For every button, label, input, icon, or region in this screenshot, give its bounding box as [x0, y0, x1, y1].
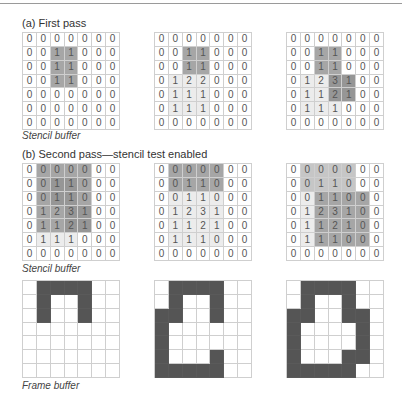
frame-pixel-empty	[65, 323, 79, 337]
stencil-cell: 1	[329, 102, 343, 116]
stencil-cell: 3	[329, 75, 343, 89]
frame-pixel-filled	[210, 364, 224, 378]
stencil-cell: 1	[315, 102, 329, 116]
stencil-cell: 0	[23, 192, 37, 206]
stencil-cell: 0	[23, 102, 37, 116]
frame-pixel-filled	[169, 281, 183, 295]
stencil-cell: 0	[65, 88, 79, 102]
frame-pixel-empty	[37, 323, 51, 337]
frame-pixel-empty	[65, 336, 79, 350]
frame-pixel-filled	[287, 364, 301, 378]
frame-pixel-empty	[65, 295, 79, 309]
stencil-cell: 1	[65, 192, 79, 206]
stencil-cell: 1	[65, 233, 79, 247]
frame-pixel-empty	[106, 323, 120, 337]
stencil-cell: 0	[78, 116, 92, 130]
stencil-cell: 1	[197, 102, 211, 116]
stencil-cell: 2	[65, 219, 79, 233]
stencil-cell: 1	[78, 206, 92, 220]
stencil-cell: 0	[301, 33, 315, 47]
frame-pixel-empty	[23, 281, 37, 295]
stencil-cell: 0	[356, 47, 370, 61]
stencil-cell: 1	[315, 233, 329, 247]
frame-pixel-empty	[78, 323, 92, 337]
frame-pixel-empty	[224, 309, 238, 323]
stencil-cell: 1	[169, 75, 183, 89]
stencil-cell: 0	[370, 219, 384, 233]
stencil-cell: 0	[210, 247, 224, 261]
frame-pixel-empty	[106, 295, 120, 309]
stencil-cell: 0	[37, 178, 51, 192]
frame-pixel-empty	[23, 323, 37, 337]
stencil-cell: 0	[106, 247, 120, 261]
frame-pixel-empty	[51, 364, 65, 378]
stencil-grid-a3: 0000000001100000110000123100011210001110…	[286, 32, 384, 130]
stencil-cell: 0	[183, 247, 197, 261]
stencil-cell: 0	[155, 88, 169, 102]
frame-pixel-filled	[155, 350, 169, 364]
stencil-cell: 0	[301, 192, 315, 206]
frame-pixel-empty	[342, 323, 356, 337]
stencil-cell: 0	[342, 247, 356, 261]
stencil-cell: 0	[106, 75, 120, 89]
stencil-cell: 1	[315, 61, 329, 75]
frame-pixel-empty	[92, 281, 106, 295]
stencil-cell: 0	[106, 178, 120, 192]
frame-pixel-empty	[51, 295, 65, 309]
stencil-cell: 1	[51, 219, 65, 233]
stencil-cell: 0	[92, 219, 106, 233]
stencil-cell: 0	[370, 102, 384, 116]
frame-pixel-empty	[92, 309, 106, 323]
stencil-cell: 0	[329, 164, 343, 178]
stencil-cell: 0	[51, 247, 65, 261]
stencil-cell: 0	[23, 247, 37, 261]
stencil-cell: 0	[287, 219, 301, 233]
stencil-cell: 0	[23, 206, 37, 220]
stencil-cell: 0	[370, 47, 384, 61]
stencil-cell: 1	[197, 61, 211, 75]
frame-pixel-empty	[106, 364, 120, 378]
stencil-cell: 0	[78, 178, 92, 192]
stencil-cell: 0	[315, 33, 329, 47]
stencil-cell: 0	[37, 192, 51, 206]
stencil-cell: 1	[183, 219, 197, 233]
stencil-cell: 1	[169, 102, 183, 116]
stencil-cell: 0	[155, 219, 169, 233]
stencil-cell: 0	[224, 247, 238, 261]
stencil-cell: 0	[37, 247, 51, 261]
stencil-cell: 1	[342, 206, 356, 220]
stencil-cell: 0	[301, 164, 315, 178]
stencil-cell: 0	[92, 192, 106, 206]
stencil-cell: 0	[238, 233, 252, 247]
stencil-cell: 0	[155, 178, 169, 192]
stencil-cell: 0	[92, 75, 106, 89]
stencil-cell: 0	[92, 102, 106, 116]
frame-pixel-empty	[183, 336, 197, 350]
stencil-cell: 0	[23, 219, 37, 233]
stencil-cell: 0	[23, 33, 37, 47]
stencil-cell: 0	[106, 88, 120, 102]
stencil-cell: 0	[287, 206, 301, 220]
stencil-cell: 0	[287, 33, 301, 47]
stencil-cell: 0	[183, 116, 197, 130]
stencil-cell: 0	[78, 61, 92, 75]
frame-pixel-empty	[197, 295, 211, 309]
stencil-cell: 1	[301, 88, 315, 102]
stencil-cell: 0	[356, 88, 370, 102]
stencil-cell: 0	[92, 164, 106, 178]
frame-pixel-empty	[169, 350, 183, 364]
stencil-cell: 0	[238, 206, 252, 220]
frame-pixel-empty	[287, 281, 301, 295]
frame-pixel-filled	[342, 281, 356, 295]
stencil-caption-b: Stencil buffer	[22, 263, 80, 274]
frame-pixel-filled	[356, 309, 370, 323]
frame-pixel-empty	[51, 309, 65, 323]
stencil-cell: 0	[210, 178, 224, 192]
stencil-grid-b2: 0000000001100000110000123100011210001110…	[154, 163, 252, 261]
stencil-cell: 0	[23, 75, 37, 89]
frame-pixel-empty	[238, 323, 252, 337]
stencil-cell: 0	[106, 206, 120, 220]
frame-caption: Frame buffer	[22, 380, 79, 391]
frame-pixel-empty	[183, 295, 197, 309]
stencil-cell: 0	[78, 233, 92, 247]
